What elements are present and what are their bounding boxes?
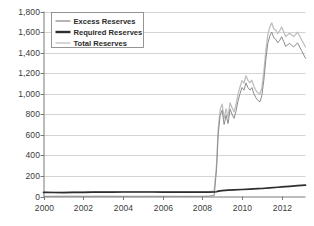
chart-legend: Excess ReservesRequired ReservesTotal Re… — [52, 13, 144, 48]
series-line-total-reserves — [44, 23, 306, 192]
data-series — [44, 23, 306, 196]
legend-label-1: Required Reserves — [74, 28, 143, 37]
legend-label-2: Total Reserves — [74, 39, 127, 48]
series-line-required-reserves — [44, 185, 306, 192]
legend-label-0: Excess Reserves — [74, 17, 136, 26]
reserves-line-chart: 02004006008001,0001,2001,4001,6001,800 2… — [0, 0, 314, 226]
plot-area: Excess ReservesRequired ReservesTotal Re… — [0, 0, 314, 226]
